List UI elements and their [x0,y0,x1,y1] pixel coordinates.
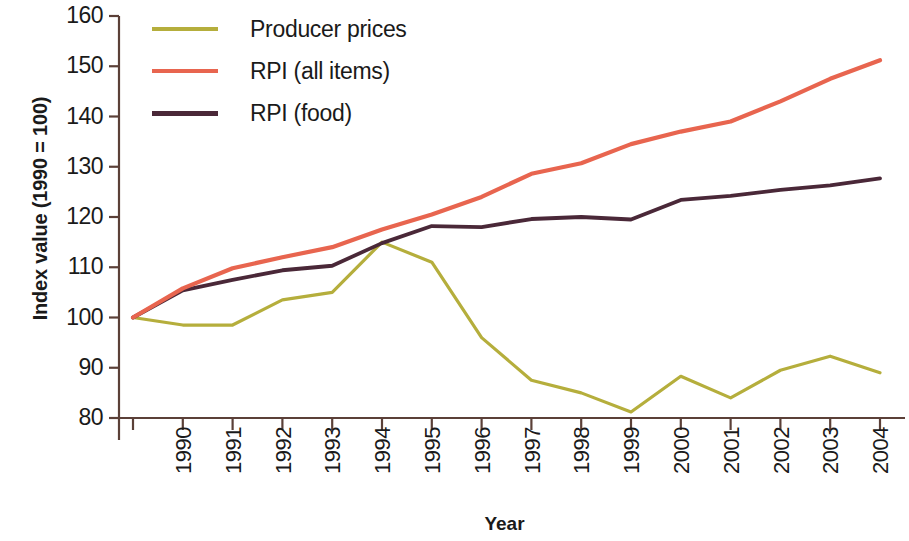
x-tick-label: 1993 [322,427,344,507]
x-tick-label: 2000 [671,427,693,507]
x-tick-label: 1991 [223,427,245,507]
x-tick-label: 1999 [621,427,643,507]
x-tick-label: 1990 [173,427,195,507]
x-tick-label: 1995 [422,427,444,507]
x-tick-label: 1998 [571,427,593,507]
x-tick-label: 1997 [522,427,544,507]
x-tick-label: 2003 [820,427,842,507]
legend-item: RPI (food) [152,92,482,134]
x-axis-title: Year [0,513,909,535]
x-tick-label: 1996 [472,427,494,507]
x-tick-label: 2004 [870,427,892,507]
x-tick-label: 1992 [273,427,295,507]
legend-label: RPI (all items) [250,58,390,85]
legend-color-swatch [152,27,218,31]
x-tick-label: 2001 [721,427,743,507]
legend-label: Producer prices [250,16,407,43]
legend-label: RPI (food) [250,100,352,127]
x-tick-label: 1994 [372,427,394,507]
x-tick-label: 2002 [771,427,793,507]
legend-item: RPI (all items) [152,50,482,92]
legend-color-swatch [152,69,218,73]
line-chart: Index value (1990 = 100) 160150140130120… [0,0,909,541]
chart-legend: Producer pricesRPI (all items)RPI (food) [152,8,482,134]
legend-item: Producer prices [152,8,482,50]
legend-color-swatch [152,111,218,116]
